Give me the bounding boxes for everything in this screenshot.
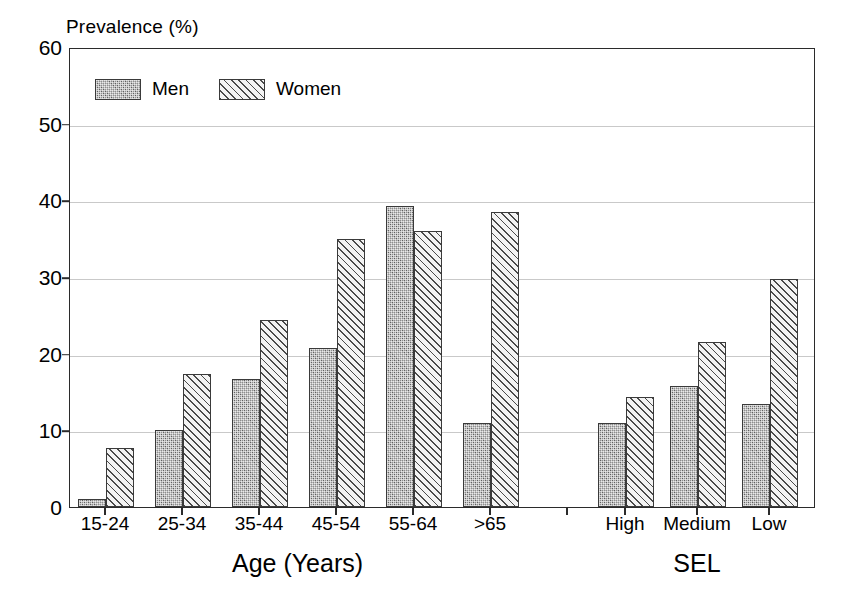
chart-legend: MenWomen [95, 78, 341, 100]
y-tick-mark-40 [62, 201, 70, 203]
y-tick-label-60: 60 [39, 36, 62, 60]
gridline-30 [70, 279, 814, 280]
bar-men-High [598, 423, 626, 507]
legend-entry-women: Women [219, 78, 341, 100]
bar-men-Low [742, 404, 770, 508]
y-tick-mark-30 [62, 277, 70, 279]
x-axis-label-25-34: 25-34 [158, 513, 207, 535]
legend-label-men: Men [152, 78, 189, 100]
y-tick-label-0: 0 [50, 496, 62, 520]
x-axis-label-High: High [605, 513, 644, 535]
x-axis-label->65: >65 [474, 513, 506, 535]
y-tick-label-50: 50 [39, 113, 62, 137]
bar-men->65 [463, 423, 491, 507]
x-axis-label-45-54: 45-54 [312, 513, 361, 535]
bar-men-55-64 [386, 206, 414, 507]
x-axis-label-Low: Low [752, 513, 787, 535]
y-tick-mark-50 [62, 124, 70, 126]
x-tick-mark-separator [566, 508, 567, 515]
x-axis-label-15-24: 15-24 [81, 513, 130, 535]
y-tick-label-40: 40 [39, 189, 62, 213]
bar-women-55-64 [414, 231, 442, 507]
y-tick-mark-10 [62, 431, 70, 433]
plot-area [69, 48, 815, 508]
x-axis-label-35-44: 35-44 [235, 513, 284, 535]
bar-chart: Prevalence (%) 0102030405060 15-2425-343… [0, 0, 845, 599]
y-tick-mark-20 [62, 354, 70, 356]
bar-men-45-54 [309, 348, 337, 507]
bar-women-High [626, 397, 654, 507]
gridline-40 [70, 202, 814, 203]
bar-women->65 [491, 212, 519, 507]
bar-men-15-24 [78, 499, 106, 507]
gridline-50 [70, 126, 814, 127]
group-title-age: Age (Years) [232, 549, 363, 578]
legend-swatch-women [219, 79, 265, 100]
bar-men-35-44 [232, 379, 260, 507]
bar-women-45-54 [337, 239, 365, 507]
legend-swatch-men [95, 79, 141, 100]
legend-label-women: Women [276, 78, 341, 100]
group-title-sel: SEL [673, 549, 720, 578]
bar-women-25-34 [183, 374, 211, 507]
x-axis-label-55-64: 55-64 [389, 513, 438, 535]
legend-entry-men: Men [95, 78, 189, 100]
bar-women-Low [770, 279, 798, 507]
bar-men-25-34 [155, 430, 183, 507]
y-axis-title: Prevalence (%) [66, 16, 199, 38]
bar-women-Medium [698, 342, 726, 507]
bar-men-Medium [670, 386, 698, 507]
x-axis-label-Medium: Medium [663, 513, 731, 535]
y-tick-label-20: 20 [39, 343, 62, 367]
y-tick-label-10: 10 [39, 419, 62, 443]
y-tick-label-30: 30 [39, 266, 62, 290]
bar-women-35-44 [260, 320, 288, 507]
bar-women-15-24 [106, 448, 134, 507]
